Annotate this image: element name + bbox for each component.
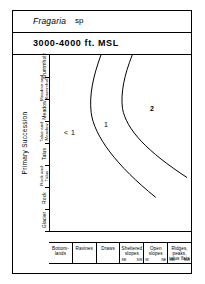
x-axis-category-label: Bottom-lands: [49, 246, 72, 256]
x-axis-category-label: Openslopes: [144, 246, 167, 256]
title-band: Fragaria sp: [13, 11, 191, 33]
species-name: Fragaria: [33, 16, 66, 26]
elevation-band: 3000-4000 ft. MSL: [13, 33, 191, 55]
y-axis-category-label: Meadow andKrummholz: [39, 75, 49, 101]
x-axis-category-cell: ShelteredslopesSESW: [120, 243, 144, 263]
y-axis-category-label: Meadow: [41, 100, 47, 120]
curve-label-2: 2: [150, 105, 154, 112]
x-axis-category-cell: Bottom-lands: [49, 243, 73, 263]
plot-area: < 1 1 2: [49, 55, 191, 231]
y-axis: Primary Succession KrummholzMeadow andKr…: [13, 55, 49, 231]
y-axis-title: Primary Succession: [21, 98, 28, 188]
x-axis-aspect-label-left: W: [145, 258, 148, 262]
succession-curve: [91, 55, 156, 197]
x-axis-aspect-label-right: NW: [184, 258, 190, 262]
x-axis-category-cell: Ridges,peaks,talus flatsSWNW: [168, 243, 191, 263]
figure-frame: Fragaria sp 3000-4000 ft. MSL Primary Su…: [12, 10, 192, 274]
x-axis-category-cell: OpenslopesWNE: [144, 243, 168, 263]
curve-label-lt1: < 1: [64, 129, 75, 136]
y-axis-category-label: Rock andTalus: [39, 166, 49, 185]
x-axis-aspect-label-right: NE: [161, 258, 166, 262]
y-axis-category-label: Glacier: [41, 212, 47, 229]
succession-curve: [122, 55, 187, 178]
y-axis-category-label: Talus andMeadow: [39, 122, 49, 142]
x-axis-category-label: Draws: [97, 246, 120, 251]
elevation-range-label: 3000-4000 ft. MSL: [33, 38, 119, 48]
x-axis-category-cell: Ravines: [73, 243, 97, 263]
x-axis-aspect-label-left: SE: [121, 258, 126, 262]
x-axis-categories: Bottom-landsRavinesDrawsShelteredslopesS…: [49, 242, 191, 264]
x-axis-category-label: Ravines: [73, 246, 96, 251]
x-axis-aspect-label-right: SW: [137, 258, 143, 262]
curve-label-1: 1: [104, 121, 108, 128]
x-axis-aspect-label-left: SW: [169, 258, 175, 262]
x-axis: Bottom-landsRavinesDrawsShelteredslopesS…: [49, 231, 191, 273]
x-axis-category-cell: Draws: [97, 243, 121, 263]
y-axis-category-label: Rock: [41, 192, 47, 204]
y-axis-category-label: Talus: [41, 148, 47, 160]
x-axis-category-label: Shelteredslopes: [120, 246, 143, 256]
species-rank-label: sp: [75, 16, 83, 25]
succession-curves: [50, 55, 191, 231]
